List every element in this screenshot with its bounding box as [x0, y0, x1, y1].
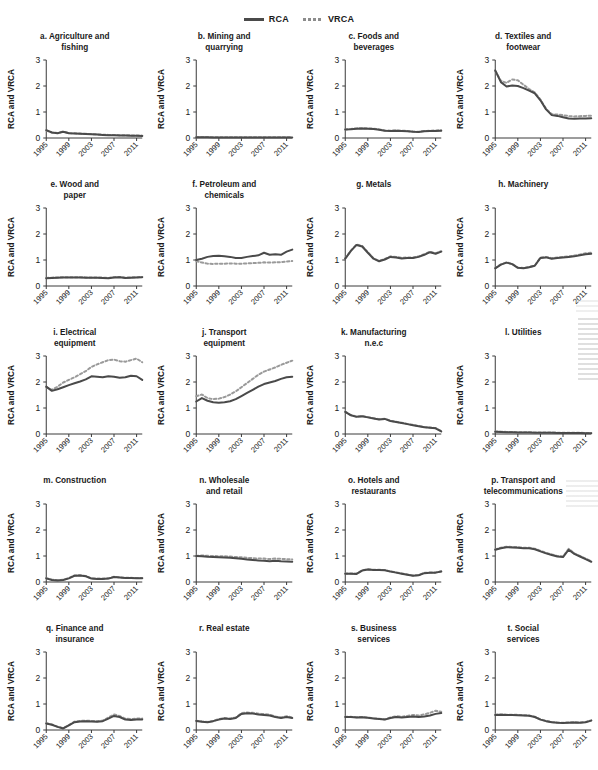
x-tick-label: 2007 [398, 584, 416, 602]
y-axis-label-d: RCA and VRCA [456, 69, 465, 129]
x-tick-label: 2011 [571, 584, 589, 602]
x-tick-label: 1995 [480, 732, 498, 750]
chart-panel-s: s. Business servicesRCA and VRCA01231995… [299, 622, 449, 770]
panel-title-r: r. Real estate [150, 622, 300, 644]
x-tick-label: 2007 [249, 732, 267, 750]
series-rca-m [46, 576, 142, 581]
x-tick-label: 2011 [122, 140, 140, 158]
series-vrca-i [46, 359, 142, 390]
y-axis-label-m: RCA and VRCA [7, 513, 16, 573]
x-tick-label: 2003 [376, 732, 394, 750]
x-tick-label: 2003 [525, 288, 543, 306]
y-tick-label: 3 [185, 647, 190, 657]
x-tick-label: 1995 [31, 288, 49, 306]
y-tick-label: 0 [484, 429, 489, 439]
series-rca-d [495, 70, 591, 118]
y-tick-label: 2 [335, 81, 340, 91]
x-tick-label: 1999 [502, 584, 520, 602]
x-tick-label: 1999 [203, 140, 221, 158]
series-rca-k [345, 412, 441, 432]
panel-title-d: d. Textiles and footwear [449, 30, 598, 52]
y-tick-label: 0 [36, 281, 41, 291]
y-tick-label: 3 [484, 647, 489, 657]
plot-area-s: RCA and VRCA012319951999200320072011 [299, 644, 449, 762]
x-tick-label: 1995 [181, 732, 199, 750]
y-axis-label-o: RCA and VRCA [306, 513, 315, 573]
y-tick-label: 3 [484, 499, 489, 509]
plot-area-a: RCA and VRCA012319951999200320072011 [0, 52, 150, 170]
y-tick-label: 3 [484, 55, 489, 65]
y-axis-label-r: RCA and VRCA [157, 661, 166, 721]
x-tick-label: 2003 [226, 584, 244, 602]
x-tick-label: 2003 [376, 288, 394, 306]
legend-swatch-rca-icon [244, 18, 264, 21]
y-tick-label: 2 [484, 673, 489, 683]
y-tick-label: 0 [484, 725, 489, 735]
y-tick-label: 0 [335, 725, 340, 735]
panel-grid: a. Agriculture and fishingRCA and VRCA01… [0, 30, 598, 770]
y-tick-label: 2 [36, 525, 41, 535]
y-axis-label-h: RCA and VRCA [456, 217, 465, 277]
y-axis-label-q: RCA and VRCA [7, 661, 16, 721]
chart-panel-j: j. Transport equipmentRCA and VRCA012319… [150, 326, 300, 474]
y-tick-label: 2 [185, 81, 190, 91]
y-tick-label: 1 [185, 403, 190, 413]
y-tick-label: 1 [484, 699, 489, 709]
x-tick-label: 1999 [54, 436, 72, 454]
panel-title-s: s. Business services [299, 622, 449, 644]
y-axis-label-t: RCA and VRCA [456, 661, 465, 721]
series-rca-f [196, 250, 292, 260]
y-tick-label: 3 [335, 203, 340, 213]
y-tick-label: 3 [335, 647, 340, 657]
y-tick-label: 2 [36, 673, 41, 683]
plot-area-g: RCA and VRCA012319951999200320072011 [299, 200, 449, 318]
plot-area-d: RCA and VRCA012319951999200320072011 [449, 52, 598, 170]
x-tick-label: 2011 [421, 288, 439, 306]
x-tick-label: 2007 [398, 436, 416, 454]
x-tick-label: 2003 [226, 140, 244, 158]
plot-area-l: RCA and VRCA012319951999200320072011 [449, 348, 598, 466]
chart-panel-p: p. Transport and telecommunicationsRCA a… [449, 474, 598, 622]
x-tick-label: 1999 [353, 732, 371, 750]
y-axis-label-k: RCA and VRCA [306, 365, 315, 425]
x-tick-label: 2003 [77, 732, 95, 750]
x-tick-label: 1999 [353, 140, 371, 158]
y-tick-label: 1 [335, 699, 340, 709]
x-tick-label: 1995 [181, 584, 199, 602]
y-axis-label-i: RCA and VRCA [7, 365, 16, 425]
plot-area-j: RCA and VRCA012319951999200320072011 [150, 348, 300, 466]
x-tick-label: 1995 [480, 584, 498, 602]
y-axis-label-j: RCA and VRCA [157, 365, 166, 425]
x-tick-label: 1999 [502, 288, 520, 306]
plot-area-k: RCA and VRCA012319951999200320072011 [299, 348, 449, 466]
y-tick-label: 1 [185, 551, 190, 561]
panel-title-g: g. Metals [299, 178, 449, 200]
y-tick-label: 0 [484, 577, 489, 587]
x-tick-label: 2003 [525, 140, 543, 158]
x-tick-label: 2007 [249, 288, 267, 306]
x-tick-label: 2003 [525, 436, 543, 454]
y-tick-label: 2 [36, 229, 41, 239]
x-tick-label: 2003 [525, 584, 543, 602]
y-axis-label-g: RCA and VRCA [306, 217, 315, 277]
plot-area-m: RCA and VRCA012319951999200320072011 [0, 496, 150, 614]
panel-title-c: c. Foods and beverages [299, 30, 449, 52]
x-tick-label: 1999 [54, 732, 72, 750]
x-tick-label: 2007 [249, 584, 267, 602]
y-tick-label: 3 [36, 351, 41, 361]
x-tick-label: 2003 [226, 732, 244, 750]
x-tick-label: 1995 [330, 288, 348, 306]
panel-title-b: b. Mining and quarrying [150, 30, 300, 52]
x-tick-label: 2003 [77, 140, 95, 158]
x-tick-label: 2011 [571, 140, 589, 158]
y-axis-label-a: RCA and VRCA [7, 69, 16, 129]
y-tick-label: 2 [335, 525, 340, 535]
chart-panel-g: g. MetalsRCA and VRCA0123199519992003200… [299, 178, 449, 326]
x-tick-label: 1995 [330, 732, 348, 750]
x-tick-label: 2003 [376, 584, 394, 602]
y-tick-label: 0 [36, 429, 41, 439]
y-axis-label-p: RCA and VRCA [456, 513, 465, 573]
x-tick-label: 1999 [353, 288, 371, 306]
y-tick-label: 0 [36, 133, 41, 143]
y-tick-label: 1 [36, 403, 41, 413]
